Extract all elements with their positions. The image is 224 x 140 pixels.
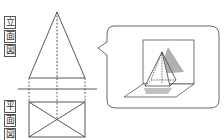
projection-lines: [29, 78, 85, 119]
elevation-view: [29, 12, 85, 78]
projection-diagram: [0, 0, 224, 140]
